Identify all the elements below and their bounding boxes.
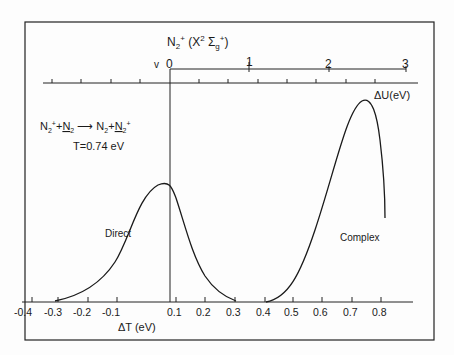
x-axis: -0.4 -0.3 -0.2 -0.1 0.1 0.2 0.3 0.4 0.5 …: [14, 297, 413, 333]
svg-text:-0.3: -0.3: [44, 306, 62, 318]
svg-text:0.4: 0.4: [256, 306, 271, 318]
svg-text:0.1: 0.1: [167, 306, 182, 318]
direct-curve: [55, 183, 236, 301]
svg-text:0.6: 0.6: [313, 306, 328, 318]
svg-text:-0.2: -0.2: [73, 306, 91, 318]
direct-label: Direct: [105, 228, 131, 239]
top-axis-label: ΔU(eV): [374, 89, 410, 101]
chart-figure: N2+ (X2 Σg+) v 0 1 2 3 ΔU(eV) N2++N2 ⟶ N…: [0, 0, 454, 355]
svg-text:0.5: 0.5: [284, 306, 299, 318]
plot-frame: [25, 22, 434, 340]
svg-text:2: 2: [325, 57, 332, 71]
svg-text:0.3: 0.3: [226, 306, 241, 318]
complex-label: Complex: [340, 232, 379, 243]
svg-text:1: 1: [246, 55, 253, 69]
top-axis: ΔU(eV): [43, 79, 418, 101]
svg-text:0.7: 0.7: [343, 306, 358, 318]
svg-text:N2+ (X2 Σg+): N2+ (X2 Σg+): [167, 34, 228, 51]
svg-text:0: 0: [166, 57, 173, 71]
energy-label: T=0.74 eV: [73, 140, 125, 152]
svg-text:3: 3: [402, 57, 409, 71]
reaction-label: N2++N2 ⟶ N2+N2+ T=0.74 eV: [40, 120, 131, 152]
chart-title: N2+ (X2 Σg+): [167, 34, 228, 51]
svg-text:0.8: 0.8: [372, 306, 387, 318]
svg-text:-0.4: -0.4: [14, 306, 32, 318]
svg-text:N2++N2 ⟶ N2+N2+: N2++N2 ⟶ N2+N2+: [40, 120, 131, 134]
vibrational-axis: v 0 1 2 3: [154, 55, 409, 72]
svg-text:0.2: 0.2: [196, 306, 211, 318]
v-label: v: [154, 59, 159, 70]
svg-text:-0.1: -0.1: [102, 306, 120, 318]
complex-curve: [266, 100, 385, 302]
x-axis-label: ΔT (eV): [118, 321, 156, 333]
